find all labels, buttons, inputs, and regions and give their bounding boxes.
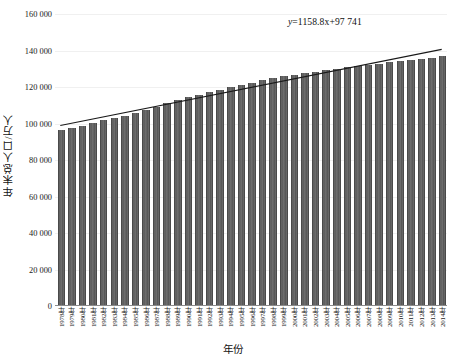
bar bbox=[269, 78, 277, 306]
population-bar-chart: 年末总人口/万人 020 00040 00060 00080 000100 00… bbox=[0, 0, 452, 358]
x-axis-tick-label: 1994年 bbox=[226, 307, 236, 327]
x-axis-tick-label: 1987年 bbox=[152, 307, 162, 327]
bar bbox=[428, 58, 436, 306]
x-axis-tick-label: 1997年 bbox=[258, 307, 268, 327]
bar bbox=[375, 64, 383, 306]
x-axis-tick-label: 2000年 bbox=[290, 307, 300, 327]
y-axis-tick-label: 60 000 bbox=[4, 192, 52, 201]
y-axis-tick-label: 20 000 bbox=[4, 265, 52, 274]
bar bbox=[68, 128, 76, 306]
x-axis-tick-label: 1983年 bbox=[110, 307, 120, 327]
bar bbox=[216, 90, 224, 306]
bar bbox=[238, 85, 246, 306]
bar bbox=[301, 73, 309, 306]
bar bbox=[344, 67, 352, 306]
x-axis-tick-label: 1985年 bbox=[131, 307, 141, 327]
y-axis-tick-labels: 020 00040 00060 00080 000100 000120 0001… bbox=[0, 0, 52, 358]
bar-series bbox=[55, 14, 447, 306]
bar bbox=[79, 126, 87, 306]
bar bbox=[386, 62, 394, 306]
bar bbox=[248, 83, 256, 306]
x-axis-tick-label: 1996年 bbox=[248, 307, 258, 327]
x-axis-tick-label: 1984年 bbox=[120, 307, 130, 327]
bar bbox=[163, 103, 171, 306]
trendline-equation: y=1158.8x+97 741 bbox=[288, 16, 362, 27]
x-axis-tick-label: 1988年 bbox=[163, 307, 173, 327]
x-axis-tick-label: 2008年 bbox=[375, 307, 385, 327]
bar bbox=[333, 69, 341, 306]
x-axis-tick-label: 2012年 bbox=[417, 307, 427, 327]
x-axis-tick-label: 2010年 bbox=[396, 307, 406, 327]
bar bbox=[397, 61, 405, 306]
bar bbox=[354, 66, 362, 306]
bar bbox=[195, 95, 203, 306]
x-axis-tick-label: 1981年 bbox=[89, 307, 99, 327]
bar bbox=[227, 87, 235, 306]
bar bbox=[142, 110, 150, 306]
x-axis-tick-label: 1999年 bbox=[279, 307, 289, 327]
bar bbox=[322, 70, 330, 306]
x-axis-tick-label: 1978年 bbox=[57, 307, 67, 327]
x-axis-tick-label: 2005年 bbox=[343, 307, 353, 327]
bar bbox=[111, 118, 119, 306]
y-axis-tick-label: 40 000 bbox=[4, 229, 52, 238]
y-axis-tick-label: 160 000 bbox=[4, 10, 52, 19]
y-axis-tick-label: 120 000 bbox=[4, 83, 52, 92]
x-axis-tick-label: 1979年 bbox=[67, 307, 77, 327]
y-axis-tick-label: 140 000 bbox=[4, 46, 52, 55]
bar bbox=[280, 76, 288, 306]
bar bbox=[58, 130, 66, 306]
plot-area bbox=[55, 14, 447, 306]
y-axis-tick-label: 80 000 bbox=[4, 156, 52, 165]
x-axis-tick-label: 1990年 bbox=[184, 307, 194, 327]
x-axis-title-text: 年份 bbox=[209, 344, 243, 355]
x-axis-tick-label: 1998年 bbox=[269, 307, 279, 327]
x-axis-tick-label: 1989年 bbox=[173, 307, 183, 327]
bar bbox=[206, 92, 214, 306]
x-axis-tick-label: 2001年 bbox=[300, 307, 310, 327]
x-axis-tick-label: 1986年 bbox=[142, 307, 152, 327]
x-axis-tick-label: 2014年 bbox=[438, 307, 448, 327]
y-axis-tick-label: 0 bbox=[4, 302, 52, 311]
bar bbox=[312, 72, 320, 306]
x-axis-tick-label: 1991年 bbox=[195, 307, 205, 327]
bar bbox=[291, 75, 299, 306]
bar bbox=[407, 60, 415, 306]
x-axis-tick-label: 1995年 bbox=[237, 307, 247, 327]
bar bbox=[153, 107, 161, 306]
bar bbox=[418, 59, 426, 306]
x-axis-tick-label: 1980年 bbox=[78, 307, 88, 327]
x-axis-tick-labels: 1978年1979年1980年1981年1982年1983年1984年1985年… bbox=[55, 307, 447, 341]
x-axis-tick-label: 2006年 bbox=[353, 307, 363, 327]
x-axis-tick-label: 2003年 bbox=[322, 307, 332, 327]
bar bbox=[259, 80, 267, 306]
bar bbox=[121, 116, 129, 306]
x-axis-tick-label: 1993年 bbox=[216, 307, 226, 327]
x-axis-tick-label: 2007年 bbox=[364, 307, 374, 327]
bar bbox=[365, 65, 373, 306]
x-axis-tick-label: 2004年 bbox=[332, 307, 342, 327]
x-axis-tick-label: 2013年 bbox=[428, 307, 438, 327]
x-axis-line bbox=[55, 305, 447, 306]
bar bbox=[100, 120, 108, 306]
x-axis-tick-label: 2009年 bbox=[385, 307, 395, 327]
x-axis-tick-label: 1982年 bbox=[99, 307, 109, 327]
bar bbox=[89, 123, 97, 306]
y-axis-tick-label: 100 000 bbox=[4, 119, 52, 128]
bar bbox=[132, 113, 140, 306]
x-axis-tick-label: 2002年 bbox=[311, 307, 321, 327]
x-axis-tick-label: 2011年 bbox=[406, 307, 416, 327]
bar bbox=[185, 97, 193, 306]
x-axis-title: 年份 bbox=[0, 341, 452, 356]
equation-expression: =1158.8x+97 741 bbox=[292, 16, 362, 27]
bar bbox=[439, 56, 447, 306]
bar bbox=[174, 100, 182, 306]
x-axis-tick-label: 1992年 bbox=[205, 307, 215, 327]
